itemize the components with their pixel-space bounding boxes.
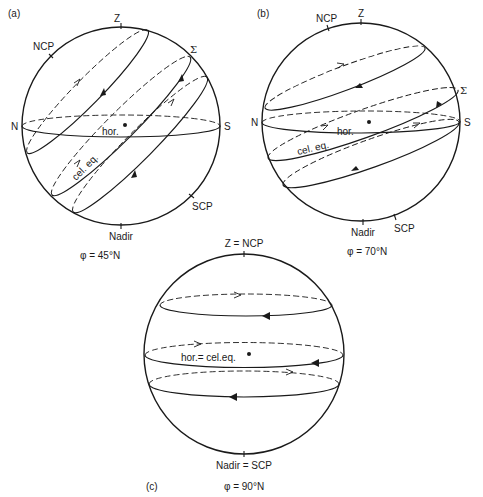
north-label-a: N: [11, 121, 18, 132]
south-label-a: S: [224, 121, 231, 132]
ncp-label-a: NCP: [33, 41, 54, 52]
south-label-b: S: [464, 117, 471, 128]
observer-dot-a: [123, 123, 127, 127]
zenith-label-b: Z: [358, 8, 364, 19]
arrow-solid-icon: [229, 393, 237, 401]
diurnal-circle-lower-c: [149, 371, 339, 397]
horizon-label-b: hor.: [337, 126, 354, 137]
arrow-open-icon: [321, 125, 328, 130]
diurnal-circle-upper-c: [160, 294, 332, 316]
zenith-label-a: Z: [114, 13, 120, 24]
arrow-solid-icon: [351, 166, 359, 171]
arrow-solid-icon: [262, 312, 270, 320]
north-label-b: N: [251, 117, 258, 128]
arrow-open-icon: [74, 79, 80, 86]
diurnal-circle-lower-a: [63, 67, 217, 222]
nadir-scp-label-c: Nadir = SCP: [216, 460, 272, 471]
panel-c: Z = NCP hor.= cel.eq. Nadir = SCP (c) φ …: [144, 238, 344, 492]
arrow-open-icon: [234, 292, 241, 298]
sigma-label-b: Σ: [460, 85, 467, 96]
latitude-caption-a: φ = 45°N: [80, 250, 120, 261]
observer-dot-b: [367, 120, 371, 124]
nadir-label-a: Nadir: [109, 231, 134, 242]
panel-b-label: (b): [257, 8, 269, 19]
horizon-circle-a: [22, 115, 220, 137]
zenith-ncp-label-c: Z = NCP: [225, 238, 264, 249]
horizon-equator-label-c: hor.= cel.eq.: [181, 352, 236, 363]
horizon-label-a: hor.: [102, 126, 119, 137]
ncp-label-b: NCP: [316, 13, 337, 24]
celestial-sphere-figure: (a): [0, 0, 483, 497]
panel-b: (b) Z NC: [251, 8, 471, 257]
observer-dot-c: [247, 352, 251, 356]
panel-a: (a): [8, 8, 231, 261]
latitude-caption-b: φ = 70°N: [347, 246, 387, 257]
arrow-solid-icon: [311, 359, 319, 367]
nadir-label-b: Nadir: [351, 227, 376, 238]
latitude-caption-c: φ = 90°N: [224, 481, 264, 492]
diurnal-circle-upper-b: [261, 37, 429, 120]
motion-arrows-b: [321, 63, 442, 171]
arrow-open-icon: [168, 99, 174, 106]
scp-label-a: SCP: [192, 201, 213, 212]
celestial-sphere-c: [144, 254, 344, 454]
arrow-solid-icon: [100, 88, 106, 96]
panel-a-label: (a): [8, 8, 20, 19]
scp-label-b: SCP: [394, 223, 415, 234]
motion-arrows-c: [194, 292, 319, 401]
sigma-label-a: Σ: [190, 44, 197, 55]
celestial-equator-b: [263, 77, 462, 171]
panel-c-label: (c): [146, 481, 158, 492]
